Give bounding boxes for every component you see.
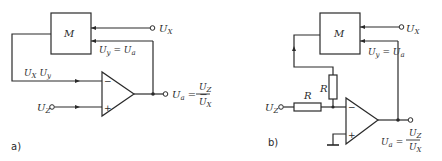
- multiplier-label-a: M: [63, 28, 75, 39]
- diagram-a: M UX Uy = Ua UX Uy UZ − + Ua = − UZ UX a…: [11, 13, 213, 152]
- label-uy-ua-a: Uy = Ua: [99, 45, 136, 57]
- label-uy-ua-b: Uy = Ua: [368, 47, 405, 59]
- terminal-ua-b: [408, 118, 413, 123]
- output-denominator-a: UX: [199, 97, 213, 109]
- opamp-inverting-sign-b: −: [348, 102, 356, 112]
- terminal-uz-a: [50, 105, 55, 110]
- label-r-input-b: R: [303, 90, 312, 101]
- arrow-icon: [360, 25, 365, 29]
- junction-dot-b: [331, 105, 334, 108]
- arrow-icon: [91, 39, 96, 43]
- opamp-noninverting-sign-a: +: [104, 103, 112, 113]
- terminal-ux-b: [399, 25, 404, 30]
- caption-b: b): [268, 137, 278, 148]
- multiplier-label-b: M: [333, 28, 345, 39]
- output-denominator-b: UX: [409, 142, 423, 154]
- junction-dot-a: [151, 92, 155, 96]
- label-ua-b: Ua =: [381, 137, 403, 149]
- label-product-a: UX Uy: [24, 68, 52, 80]
- arrow-icon: [91, 26, 96, 30]
- diagram-b: M UX Uy = Ua R R UZ − +: [265, 13, 423, 154]
- output-numerator-b: UZ: [409, 128, 422, 140]
- opamp-noninverting-sign-b: +: [348, 130, 356, 140]
- junction-dot-b-out: [396, 118, 400, 122]
- terminal-ua-a: [163, 92, 168, 97]
- label-ux-b: UX: [406, 23, 420, 36]
- circuit-diagrams: M UX Uy = Ua UX Uy UZ − + Ua = − UZ UX a…: [0, 0, 442, 161]
- label-ux-a: UX: [159, 23, 173, 36]
- resistor-feedback-b: [329, 75, 337, 99]
- arrow-icon: [75, 105, 80, 109]
- label-uz-a: UZ: [37, 102, 50, 115]
- caption-a: a): [11, 141, 21, 152]
- arrow-icon: [292, 46, 296, 51]
- arrow-icon: [75, 79, 80, 83]
- label-uz-b: UZ: [265, 102, 278, 115]
- terminal-ux-a: [150, 26, 155, 31]
- label-r-feedback-b: R: [319, 83, 328, 94]
- terminal-uz-b: [279, 105, 284, 110]
- opamp-inverting-sign-a: −: [104, 76, 112, 86]
- arrow-icon: [360, 39, 365, 43]
- resistor-input-b: [294, 103, 321, 111]
